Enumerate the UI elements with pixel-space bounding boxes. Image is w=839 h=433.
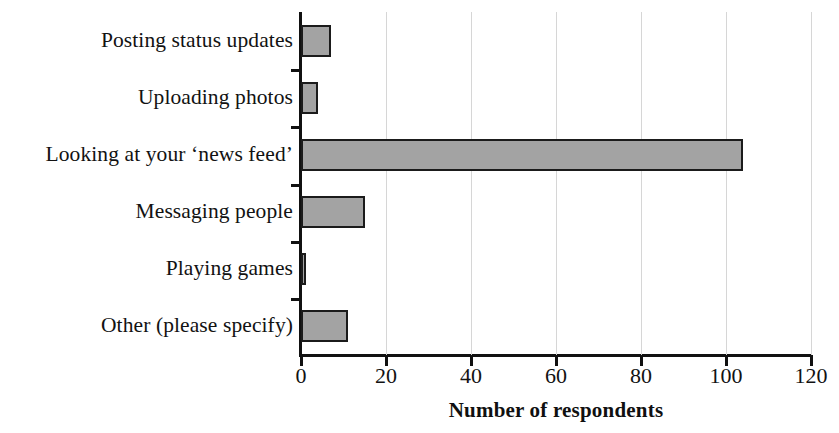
bar-5 [301, 310, 348, 342]
bar-2 [301, 139, 743, 171]
x-axis-tick-label-80: 80 [630, 364, 652, 387]
x-axis-title: Number of respondents [301, 398, 811, 423]
category-label-2: Looking at your ‘news feed’ [0, 144, 293, 166]
gridline-80 [641, 12, 642, 355]
category-axis-labels: Posting status updates Uploading photos … [0, 12, 293, 355]
category-label-3: Messaging people [0, 201, 293, 223]
gridline-100 [726, 12, 727, 355]
y-axis-tick-1 [291, 69, 300, 72]
x-axis-tick-label-120: 120 [795, 364, 828, 387]
gridline-20 [386, 12, 387, 355]
x-axis-tick-label-20: 20 [375, 364, 397, 387]
x-axis-tick-label-40: 40 [460, 364, 482, 387]
bar-3 [301, 196, 365, 228]
bar-1 [301, 82, 318, 114]
y-axis-tick-4 [291, 241, 300, 244]
y-axis-tick-2 [291, 126, 300, 129]
y-axis-tick-5 [291, 298, 300, 301]
category-label-4: Playing games [0, 258, 293, 280]
x-axis-tick-labels: 020406080100120 [301, 364, 811, 394]
x-axis-tick-label-0: 0 [296, 364, 307, 387]
bar-4 [301, 253, 306, 285]
plot-area [301, 12, 811, 355]
x-axis-tick-label-100: 100 [710, 364, 743, 387]
category-label-0: Posting status updates [0, 30, 293, 52]
x-axis-tick-label-60: 60 [545, 364, 567, 387]
bar-chart: Posting status updates Uploading photos … [0, 0, 839, 433]
category-label-1: Uploading photos [0, 87, 293, 109]
gridline-40 [471, 12, 472, 355]
y-axis-tick-3 [291, 184, 300, 187]
bar-0 [301, 25, 331, 57]
gridline-60 [556, 12, 557, 355]
gridline-120 [811, 12, 812, 355]
category-label-5: Other (please specify) [0, 315, 293, 337]
